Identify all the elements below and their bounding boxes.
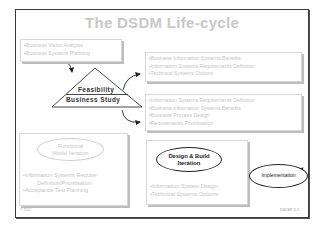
- list-item: Information Systems Requirements Definit…: [149, 63, 298, 71]
- list-item: Business Vision Analysis: [24, 42, 118, 50]
- implementation-ellipse: Implementation: [249, 164, 308, 188]
- business-study-outputs-box: Information Systems Requirements Definit…: [145, 94, 302, 131]
- functional-model-ellipse: Functional Model Iteration: [37, 138, 104, 161]
- list-item: Information Systems Requirements Definit…: [149, 97, 298, 105]
- footer-copyright: © TCC: [20, 208, 31, 212]
- list-item: Business Information Systems Benefits: [149, 55, 298, 63]
- functional-model-items: •Information Systems Require- Definition…: [23, 172, 98, 195]
- list-item: Business Process Design: [149, 112, 298, 120]
- list-item: Business Systems Planning: [24, 50, 118, 58]
- arrow-to-feasibility-outputs: [123, 74, 140, 90]
- design-build-box: Design & Build Iteration Information Sys…: [146, 140, 248, 205]
- list-item: Information System Design: [150, 183, 218, 191]
- design-build-ellipse: Design & Build Iteration: [156, 147, 222, 172]
- feasibility-label: Feasibility: [78, 86, 114, 93]
- list-item: Technical Systems Options: [149, 70, 298, 78]
- list-item: Requirements Prioritisation: [149, 120, 298, 128]
- pre-project-box: Business Vision Analysis Business System…: [20, 39, 122, 62]
- list-item: Business Information Systems Benefits: [149, 105, 298, 113]
- business-study-label: Business Study: [66, 96, 120, 103]
- list-item: Technical Systems Options: [150, 191, 218, 199]
- feasibility-outputs-box: Business Information Systems Benefits In…: [145, 52, 302, 82]
- functional-model-box: Functional Model Iteration •Information …: [19, 133, 128, 206]
- footer-slide-id: DSDMP-3-3: [280, 208, 299, 212]
- arrow-to-business-study-outputs: [122, 110, 140, 122]
